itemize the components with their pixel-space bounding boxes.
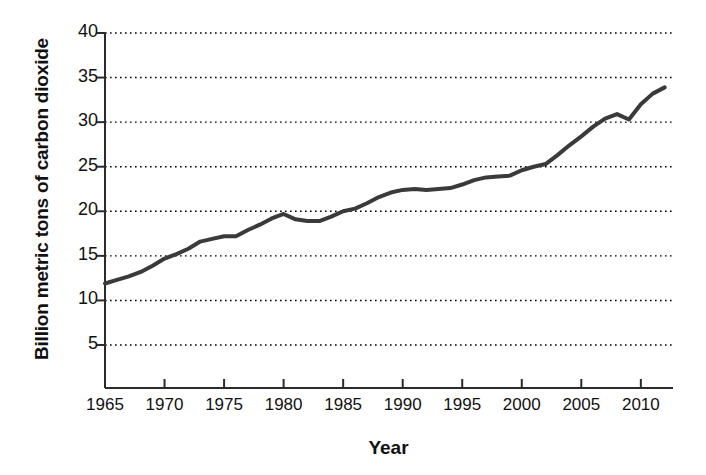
co2-emissions-line-chart: Billion metric tons of carbon dioxide 51… [0,0,706,475]
co2-data-series-line [105,87,665,283]
y-axis-ticks [97,33,105,345]
x-axis-title: Year [105,437,672,459]
axis-lines [105,33,673,388]
plot-area [0,0,706,475]
gridlines [105,33,673,345]
x-axis-ticks [105,379,641,388]
